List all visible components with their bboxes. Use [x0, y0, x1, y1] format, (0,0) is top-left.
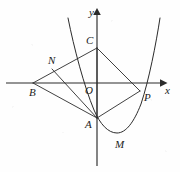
parabola-curve	[68, 18, 160, 133]
point-label-A: A	[85, 119, 92, 130]
y-axis-label: y	[89, 7, 94, 18]
point-label-O: O	[85, 85, 93, 96]
y-axis-arrowhead	[93, 8, 101, 15]
point-label-M: M	[115, 139, 124, 150]
segment-A-P	[97, 91, 140, 118]
geometry-figure: B N C O P A M x y	[0, 0, 180, 172]
x-axis-label: x	[165, 85, 170, 96]
point-label-N: N	[48, 55, 55, 66]
point-label-B: B	[29, 87, 36, 98]
segment-C-P	[97, 48, 140, 91]
segment-B-C	[33, 48, 97, 83]
point-label-C: C	[86, 35, 93, 46]
point-label-P: P	[144, 92, 151, 103]
